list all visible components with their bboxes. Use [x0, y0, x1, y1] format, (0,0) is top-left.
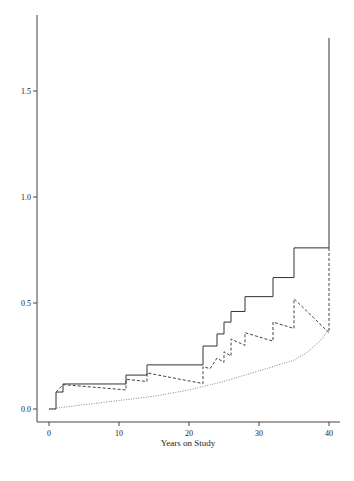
series-dashed [56, 248, 329, 392]
series-layer [49, 38, 329, 409]
chart: 0.00.51.01.5010203040 Years on Study [0, 0, 354, 481]
plot-area: 0.00.51.01.5010203040 Years on Study [0, 0, 354, 481]
axes: 0.00.51.01.5010203040 [21, 15, 340, 438]
y-tick-label: 0.0 [21, 405, 31, 414]
x-tick-label: 10 [115, 429, 123, 438]
series-solid-step [49, 38, 329, 409]
x-tick-label: 30 [255, 429, 263, 438]
x-tick-label: 20 [185, 429, 193, 438]
x-tick-label: 40 [325, 429, 333, 438]
y-tick-label: 1.5 [21, 87, 31, 96]
y-tick-label: 0.5 [21, 299, 31, 308]
y-tick-label: 1.0 [21, 193, 31, 202]
x-axis-label: Years on Study [161, 438, 216, 448]
x-tick-label: 0 [47, 429, 51, 438]
series-dotted [49, 328, 329, 409]
